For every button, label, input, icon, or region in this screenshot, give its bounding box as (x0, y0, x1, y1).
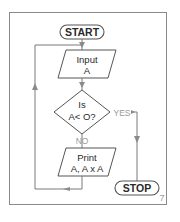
decision-label-line2: A< O? (68, 111, 95, 122)
yes-label: YES (113, 108, 130, 118)
start-terminal: START (60, 25, 104, 39)
input-block: Input A (58, 50, 116, 78)
stop-terminal: STOP (115, 181, 159, 195)
flowchart-diagram: START Input A Is A< O? YES NO Print A, A… (0, 0, 180, 222)
print-block: Print A, A x A (58, 148, 116, 176)
stop-label: STOP (123, 182, 151, 194)
arrow-down-icon (134, 136, 140, 143)
print-label-line2: A, A x A (71, 163, 104, 174)
print-label-line1: Print (77, 152, 97, 163)
page-number: 7 (159, 193, 164, 203)
no-label: NO (76, 136, 89, 146)
input-label-line2: A (84, 65, 91, 76)
decision-block: Is A< O? (54, 90, 110, 134)
arrow-down-icon (79, 82, 85, 88)
arrow-right-icon (131, 110, 135, 114)
arrow-left-icon (63, 187, 70, 191)
arrow-up-icon (32, 83, 38, 90)
input-label-line1: Input (76, 54, 97, 65)
decision-label-line1: Is (78, 99, 86, 110)
start-label: START (65, 26, 100, 38)
